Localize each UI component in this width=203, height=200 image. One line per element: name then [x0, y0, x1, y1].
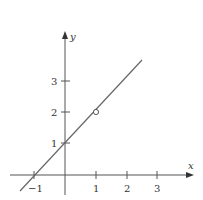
x-tick-label: 2 — [124, 183, 130, 194]
y-axis-arrow-icon — [62, 31, 68, 39]
x-axis-arrow-icon — [186, 172, 194, 178]
x-axis-label: x — [188, 160, 194, 171]
x-tick-label: −1 — [28, 183, 43, 194]
graph: x y −1 1 2 3 1 2 3 — [0, 0, 203, 200]
x-tick-label: 1 — [93, 183, 99, 194]
open-circle-hole — [93, 109, 98, 114]
x-tick-label: 3 — [154, 183, 160, 194]
y-tick-label: 2 — [51, 107, 57, 118]
function-line — [20, 60, 142, 191]
y-tick-label: 3 — [51, 76, 57, 87]
y-tick-label: 1 — [51, 138, 57, 149]
y-axis-label: y — [69, 31, 76, 42]
